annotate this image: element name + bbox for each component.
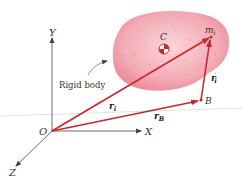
particle-point xyxy=(209,35,212,38)
vector-r-i-label: ri xyxy=(109,101,117,113)
horizon-line xyxy=(0,108,243,116)
vector-r-i-prime-label: r′i xyxy=(211,71,217,85)
vector-r-B xyxy=(52,101,198,131)
rigid-body-label: Rigid body xyxy=(59,80,105,90)
point-B-label: B xyxy=(204,96,212,106)
center-of-mass-icon xyxy=(159,44,169,54)
origin-label: O xyxy=(39,126,47,137)
y-axis-label: Y xyxy=(49,27,57,38)
body-pointer xyxy=(88,61,107,75)
point-B xyxy=(199,98,202,101)
center-of-mass-label: C xyxy=(160,32,167,42)
z-axis-label: Z xyxy=(8,167,17,178)
x-axis-label: X xyxy=(144,126,153,137)
vector-r-B-label: rB xyxy=(154,111,165,123)
rigid-body-diagram: Y X Z O Rigid body C mi B ri rB r′i xyxy=(0,0,243,185)
